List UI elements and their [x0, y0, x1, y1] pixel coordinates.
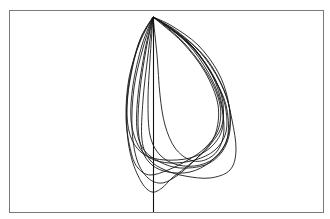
plot-frame	[10, 11, 324, 213]
vector-loop-plot	[0, 0, 330, 219]
chart-container	[0, 0, 330, 219]
loop-traces	[126, 17, 236, 192]
